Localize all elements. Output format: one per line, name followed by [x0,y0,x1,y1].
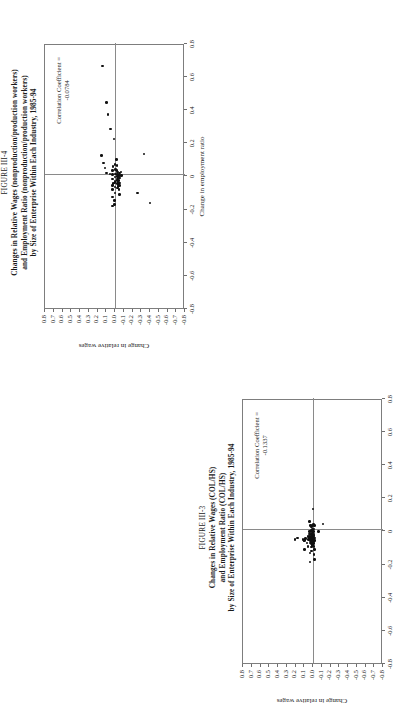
y-axis-tick [97,309,98,312]
data-point [317,530,320,533]
data-point [113,199,116,202]
x-axis-tick-label: -0.8 [189,299,195,319]
y-axis-tick-label: 0.0 [111,315,117,337]
x-axis-tick [184,76,187,77]
y-axis-tick [251,664,252,667]
data-point [107,113,110,116]
y-axis-tick [105,309,106,312]
y-axis-tick-label: -0.7 [370,670,376,692]
y-axis-tick-label: 0.7 [248,670,254,692]
y-axis-tick-label: 0.1 [102,315,108,337]
x-axis-tick-label: 0.8 [387,389,393,409]
data-point [306,542,309,545]
figure-iii-4-correlation-label: Correlation Coefficient = [55,45,63,135]
y-axis-tick [303,664,304,667]
y-axis-tick [62,309,63,312]
y-axis-tick-label: -0.8 [379,670,385,692]
y-axis-tick-label: -0.4 [146,315,152,337]
x-axis-tick [184,176,187,177]
x-axis-tick-label: -0.6 [189,266,195,286]
data-point [101,65,104,68]
x-axis-tick-label: 0.2 [189,133,195,153]
y-axis-tick-label: -0.6 [163,315,169,337]
data-point [109,128,112,131]
y-axis-tick [140,309,141,312]
figure-iii-4-title-line-1: Changes in Relative Wages (nonproduction… [10,0,20,345]
y-axis-tick [365,664,366,667]
y-axis-tick-label: 0.5 [265,670,271,692]
x-axis-tick-label: -0.4 [189,233,195,253]
data-point [104,167,107,170]
figure-iii-4-correlation-annotation: Correlation Coefficient = -0.0784 [55,45,72,135]
y-axis-tick [114,309,115,312]
data-point [100,154,103,157]
data-point [116,164,119,167]
y-axis-tick-label: -0.7 [172,315,178,337]
x-axis-tick-label: 0 [387,522,393,542]
data-point [143,153,146,156]
data-point [111,196,114,199]
data-point [113,203,116,206]
figure-iii-3-title-line-3: by Size of Enterprise Within Each Indust… [227,355,237,700]
figure-iii-3-y-axis-title: Change in relative wages [277,697,348,705]
x-axis-tick-label: 0.2 [387,488,393,508]
x-axis-tick-label: -0.2 [387,555,393,575]
y-axis-tick-label: -0.4 [344,670,350,692]
y-axis-tick [356,664,357,667]
y-axis-tick [373,664,374,667]
y-axis-tick-label: -0.1 [120,315,126,337]
y-axis-tick [175,309,176,312]
data-point [308,520,311,523]
y-axis-tick-label: -0.3 [137,315,143,337]
figure-iii-4-title-line-3: by Size of Enterprise Within Each Indust… [29,0,39,345]
y-axis-tick-label: 0.2 [291,670,297,692]
x-axis-tick [382,497,385,498]
data-point [120,174,123,177]
x-axis-tick [382,464,385,465]
figure-iii-3-correlation-value: -0.1337 [261,400,269,490]
data-point [118,188,121,191]
data-point [149,202,152,205]
y-axis-tick [260,664,261,667]
x-axis-tick [382,564,385,565]
y-axis-tick-label: -0.2 [326,670,332,692]
y-axis-tick [167,309,168,312]
data-point [136,192,139,195]
figure-iii-4: FIGURE III-4 Changes in Relative Wages (… [0,0,198,345]
figure-iii-3-title-line-1: Changes in Relative Wages (COL/HS) [208,355,218,700]
y-axis-tick [149,309,150,312]
figure-iii-3-title-line-2: and Employment Ratio (COL/HS) [218,355,228,700]
x-axis-tick-label: -0.8 [387,654,393,674]
data-point [314,539,317,542]
x-axis-tick-label: -0.4 [387,588,393,608]
y-axis-tick-label: 0.6 [256,670,262,692]
data-point [322,523,325,526]
y-axis-tick [338,664,339,667]
y-axis-tick [277,664,278,667]
y-axis-tick-label: -0.5 [353,670,359,692]
y-axis-tick-label: 0.0 [309,670,315,692]
x-axis-tick-label: 0.8 [189,34,195,54]
data-point [309,561,312,564]
y-axis-tick-label: 0.6 [58,315,64,337]
x-axis-tick-label: -0.6 [387,621,393,641]
data-point [115,158,118,161]
figure-iii-4-title-line-2: and Employment Ratio (nonproduction/prod… [20,0,30,345]
y-axis-tick [286,664,287,667]
figure-iii-4-title-block: FIGURE III-4 Changes in Relative Wages (… [0,0,39,345]
x-axis-tick [382,630,385,631]
y-axis-tick [347,664,348,667]
y-axis-tick-label: -0.5 [155,315,161,337]
y-axis-tick [268,664,269,667]
figure-iii-3-correlation-annotation: Correlation Coefficient = -0.1337 [253,400,270,490]
data-point [313,548,316,551]
data-point [313,545,316,548]
y-axis-tick [132,309,133,312]
data-point [296,537,299,540]
x-axis-tick [382,531,385,532]
y-axis-tick [382,664,383,667]
y-axis-tick-label: -0.1 [318,670,324,692]
y-axis-tick [53,309,54,312]
x-axis-tick-label: 0.4 [189,100,195,120]
y-axis-tick [79,309,80,312]
